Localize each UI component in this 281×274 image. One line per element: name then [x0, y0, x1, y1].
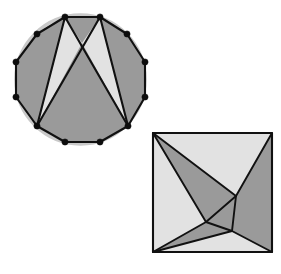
square-partition: [153, 133, 272, 252]
vertex-dot: [97, 14, 103, 20]
vertex-dot: [13, 94, 19, 100]
figure-canvas: [0, 0, 281, 274]
vertex-dot: [34, 31, 40, 37]
vertex-dot: [62, 14, 68, 20]
vertex-dot: [13, 59, 19, 65]
figure-svg: [0, 0, 281, 274]
vertex-dot: [62, 139, 68, 145]
vertex-dot: [124, 31, 130, 37]
vertex-dot: [97, 139, 103, 145]
vertex-dot: [125, 123, 131, 129]
vertex-dot: [34, 123, 40, 129]
vertex-dot: [142, 59, 148, 65]
dodecagon-partition: [13, 14, 148, 145]
vertex-dot: [142, 94, 148, 100]
